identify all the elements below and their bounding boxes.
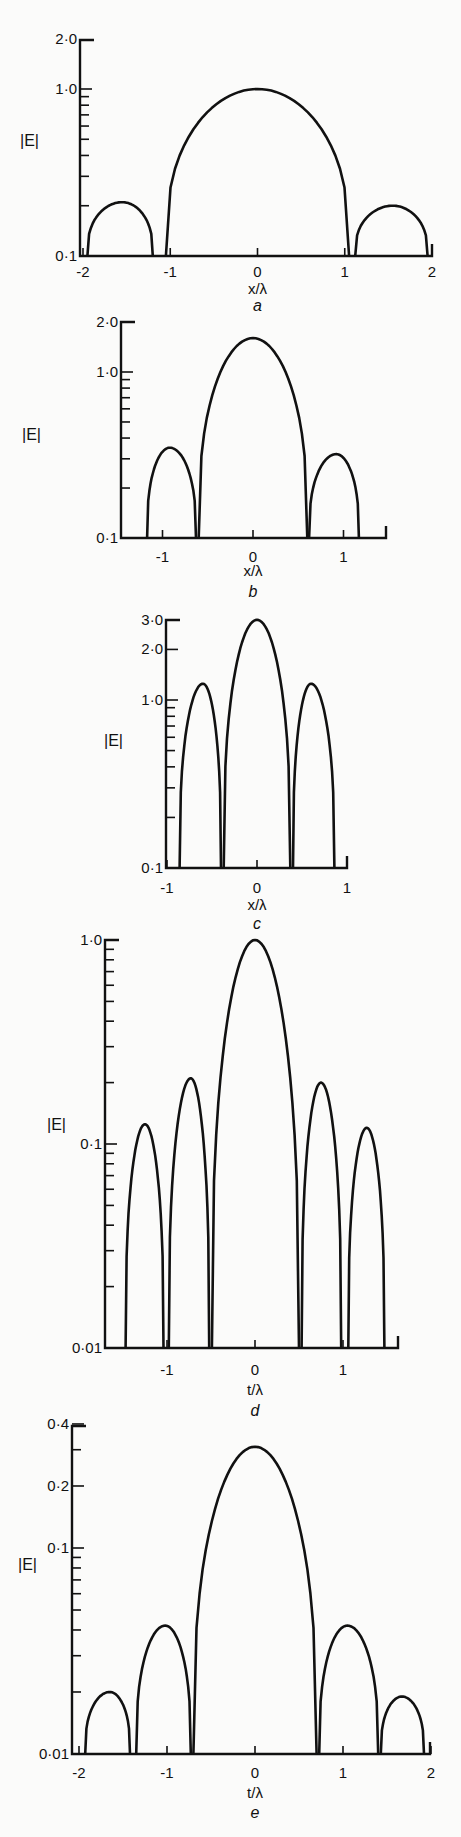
subfigure-caption: e	[251, 1804, 260, 1821]
y-tick-label: 0·01	[39, 1745, 69, 1762]
lobe-curve	[309, 454, 359, 538]
y-axis-label: |E|	[22, 426, 41, 443]
x-tick-label: -1	[160, 1764, 173, 1781]
lobe-curve	[199, 338, 308, 538]
axes	[121, 322, 386, 538]
axes	[166, 620, 347, 868]
y-axis-label: |E|	[20, 132, 39, 149]
lobe-curve	[126, 1124, 164, 1348]
axes	[105, 940, 398, 1348]
x-tick-label: 2	[427, 1764, 435, 1781]
x-tick-label: 1	[341, 263, 349, 280]
lobe-curve	[355, 206, 427, 256]
axes	[80, 40, 432, 256]
y-axis-label: |E|	[104, 732, 123, 749]
y-tick-label: 1·0	[141, 691, 163, 708]
y-tick-label: 0·4	[47, 1415, 69, 1432]
chart-c: 3·02·01·00·1-101|E|x/λc	[104, 611, 351, 932]
y-tick-label: 1·0	[96, 363, 118, 380]
x-tick-label: 2	[428, 263, 436, 280]
field-pattern-figure: 2·01·00·1-2-1012|E|x/λa2·01·00·1-101|E|x…	[0, 0, 461, 1837]
lobe-curve	[319, 1626, 378, 1754]
y-axis-label: |E|	[47, 1116, 66, 1133]
x-tick-label: 1	[339, 1764, 347, 1781]
lobe-curve	[381, 1697, 424, 1754]
lobe-curve	[293, 684, 334, 868]
x-tick-label: -1	[160, 879, 173, 896]
subfigure-caption: a	[253, 297, 262, 314]
x-axis-label: x/λ	[247, 896, 267, 913]
lobe-curve	[136, 1626, 191, 1754]
chart-e: 0·40·20·10·01-2-1012|E|t/λe	[18, 1415, 435, 1821]
y-tick-label: 0·2	[47, 1477, 69, 1494]
lobe-curve	[212, 940, 299, 1348]
lobe-curve	[180, 684, 221, 868]
x-axis-label: t/λ	[247, 1381, 263, 1398]
lobe-curve	[85, 1692, 130, 1754]
x-tick-label: -1	[160, 1361, 173, 1378]
y-tick-label: 0·1	[80, 1135, 102, 1152]
x-tick-label: 0	[253, 263, 261, 280]
x-tick-label: 0	[253, 879, 261, 896]
x-tick-label: -1	[164, 263, 177, 280]
y-axis-label: |E|	[18, 1556, 37, 1573]
x-tick-label: 1	[339, 548, 347, 565]
lobe-curve	[87, 202, 152, 256]
lobe-curve	[348, 1128, 384, 1348]
lobe-curve	[147, 448, 196, 538]
y-tick-label: 2·0	[55, 30, 77, 47]
lobe-curve	[302, 1083, 342, 1348]
y-tick-label: 0·1	[96, 529, 118, 546]
lobe-curve	[169, 1078, 209, 1348]
x-axis-label: x/λ	[243, 562, 263, 579]
chart-a: 2·01·00·1-2-1012|E|x/λa	[20, 30, 436, 314]
x-tick-label: 1	[339, 1361, 347, 1378]
lobe-curve	[224, 620, 291, 868]
subfigure-caption: c	[253, 915, 261, 932]
y-tick-label: 0·1	[55, 247, 77, 264]
x-axis-label: x/λ	[248, 280, 268, 297]
x-tick-label: -2	[72, 1764, 85, 1781]
y-tick-label: 2·0	[141, 640, 163, 657]
y-tick-label: 0·01	[72, 1339, 102, 1356]
x-tick-label: 0	[251, 1361, 259, 1378]
y-tick-label: 3·0	[141, 611, 163, 628]
y-tick-label: 0·1	[47, 1539, 69, 1556]
chart-d: 1·00·10·01-101|E|t/λd	[47, 931, 398, 1419]
x-tick-label: 1	[343, 879, 351, 896]
subfigure-caption: d	[251, 1402, 261, 1419]
y-tick-label: 1·0	[80, 931, 102, 948]
chart-b: 2·01·00·1-101|E|x/λb	[22, 313, 386, 600]
y-tick-label: 2·0	[96, 313, 118, 330]
lobe-curve	[193, 1447, 316, 1754]
x-tick-label: -2	[76, 263, 89, 280]
subfigure-caption: b	[249, 583, 258, 600]
lobe-curve	[166, 89, 349, 256]
y-tick-label: 1·0	[55, 80, 77, 97]
x-axis-label: t/λ	[247, 1784, 263, 1801]
x-tick-label: -1	[156, 548, 169, 565]
y-tick-label: 0·1	[141, 859, 163, 876]
x-tick-label: 0	[251, 1764, 259, 1781]
